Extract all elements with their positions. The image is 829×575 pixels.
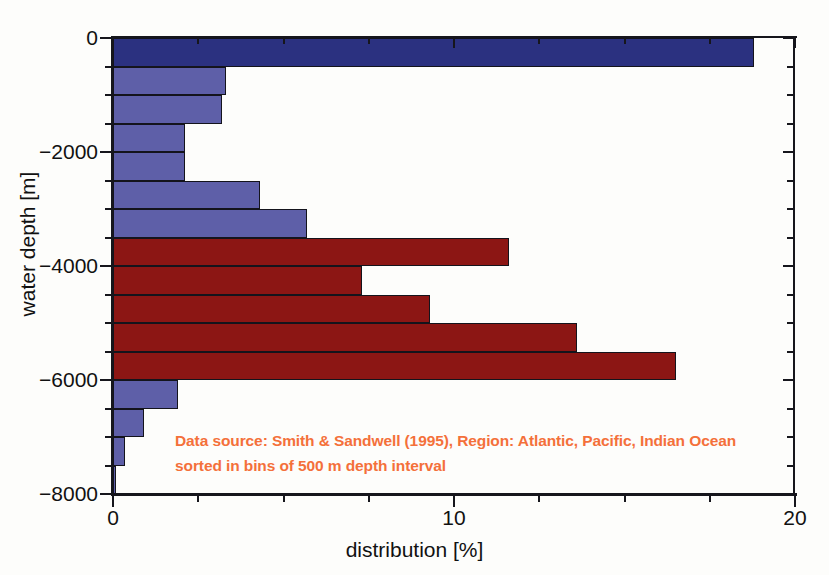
annotation-binning: sorted in bins of 500 m depth interval <box>175 457 446 475</box>
x-axis-tick <box>283 494 285 502</box>
y-axis-tick-right <box>787 180 795 182</box>
y-axis-tick <box>105 465 113 467</box>
y-axis-tick-label: −2000 <box>0 141 98 162</box>
y-axis-tick <box>105 351 113 353</box>
y-axis-tick-right <box>783 379 795 381</box>
bar-depth-bin <box>113 152 185 181</box>
y-axis-tick-right <box>787 94 795 96</box>
y-axis-tick-label: −4000 <box>0 255 98 276</box>
bar-depth-bin <box>113 466 116 495</box>
bar-depth-bin <box>113 437 125 466</box>
y-axis-tick <box>105 66 113 68</box>
y-axis-tick-right <box>783 151 795 153</box>
y-axis-tick-right <box>787 465 795 467</box>
y-axis-tick-label: −6000 <box>0 369 98 390</box>
x-axis-tick <box>709 494 711 502</box>
y-axis-tick-right <box>787 66 795 68</box>
x-axis-tick-top <box>283 36 285 44</box>
y-axis-tick-right <box>787 408 795 410</box>
y-axis-tick-right <box>787 322 795 324</box>
x-axis-title: distribution [%] <box>0 538 829 562</box>
y-axis-tick-label: 0 <box>0 27 98 48</box>
x-axis-tick-top <box>368 36 370 44</box>
x-axis-tick-top <box>197 36 199 44</box>
bar-depth-bin <box>113 67 226 96</box>
bar-depth-bin <box>113 209 307 238</box>
x-axis-tick-top <box>538 36 540 44</box>
y-axis-tick <box>105 408 113 410</box>
bar-depth-bin <box>113 295 430 324</box>
y-axis-tick <box>105 237 113 239</box>
bar-depth-bin <box>113 95 222 124</box>
x-axis-tick-top <box>624 36 626 44</box>
y-axis-tick-label: −8000 <box>0 483 98 504</box>
x-axis-tick-label: 20 <box>750 507 829 528</box>
bar-depth-bin <box>113 238 509 267</box>
x-axis-tick-label: 10 <box>409 507 499 528</box>
y-axis-tick <box>100 265 113 267</box>
y-axis-tick-right <box>787 436 795 438</box>
x-axis-tick <box>624 494 626 502</box>
y-axis-tick <box>105 123 113 125</box>
x-axis-tick <box>197 494 199 502</box>
y-axis-tick <box>105 208 113 210</box>
x-axis-tick-top <box>709 36 711 44</box>
y-axis-tick <box>105 322 113 324</box>
y-axis-tick <box>105 94 113 96</box>
y-axis-tick <box>105 180 113 182</box>
bar-depth-bin <box>113 380 178 409</box>
bar-depth-bin <box>113 323 577 352</box>
x-axis-tick-top <box>794 36 796 48</box>
bar-depth-bin <box>113 352 676 381</box>
x-axis-tick-top <box>453 36 455 48</box>
y-axis-tick-right <box>787 351 795 353</box>
figure-bathymetry-distribution: water depth [m] distribution [%] Data so… <box>0 0 829 575</box>
annotation-data-source: Data source: Smith & Sandwell (1995), Re… <box>175 432 736 450</box>
y-axis-tick <box>100 151 113 153</box>
bar-depth-bin <box>113 38 754 67</box>
y-axis-tick-right <box>787 208 795 210</box>
y-axis-tick-right <box>783 265 795 267</box>
x-axis-tick <box>538 494 540 502</box>
y-axis-tick <box>105 436 113 438</box>
bar-depth-bin <box>113 409 144 438</box>
y-axis-tick <box>105 294 113 296</box>
y-axis-tick-right <box>787 237 795 239</box>
x-axis-tick <box>368 494 370 502</box>
x-axis-tick-top <box>112 36 114 48</box>
x-axis-tick-label: 0 <box>68 507 158 528</box>
y-axis-tick-right <box>787 123 795 125</box>
bar-depth-bin <box>113 124 185 153</box>
bar-depth-bin <box>113 181 260 210</box>
y-axis-tick <box>100 379 113 381</box>
y-axis-tick-right <box>787 294 795 296</box>
bar-depth-bin <box>113 266 362 295</box>
